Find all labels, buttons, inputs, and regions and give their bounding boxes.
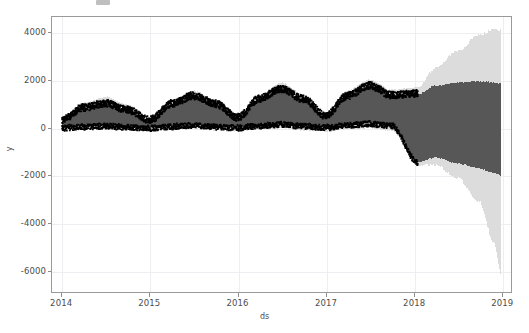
- x-tick-mark: [414, 293, 415, 297]
- x-axis-label: ds: [0, 312, 529, 321]
- data-layer: [52, 17, 511, 292]
- y-tick-label: -2000: [0, 170, 46, 180]
- figure-canvas: 400020000-2000-4000-6000 201420152016201…: [0, 0, 529, 333]
- x-tick-label: 2015: [138, 298, 160, 308]
- x-tick-label: 2017: [315, 298, 337, 308]
- y-tick-mark: [48, 80, 52, 81]
- y-tick-label: 0: [0, 123, 46, 133]
- plot-axes: [51, 16, 512, 293]
- y-tick-mark: [48, 271, 52, 272]
- y-tick-mark: [48, 128, 52, 129]
- y-tick-label: 4000: [0, 27, 46, 37]
- x-tick-label: 2014: [50, 298, 72, 308]
- y-axis-label: y: [5, 147, 14, 152]
- x-tick-mark: [326, 293, 327, 297]
- y-tick-mark: [48, 32, 52, 33]
- y-tick-label: -4000: [0, 218, 46, 228]
- y-tick-mark: [48, 175, 52, 176]
- x-tick-label: 2018: [403, 298, 425, 308]
- x-tick-label: 2016: [226, 298, 248, 308]
- plot-wrapper: 400020000-2000-4000-6000 201420152016201…: [0, 0, 529, 333]
- y-tick-label: -6000: [0, 266, 46, 276]
- x-tick-mark: [502, 293, 503, 297]
- x-tick-label: 2019: [491, 298, 513, 308]
- x-tick-mark: [238, 293, 239, 297]
- x-tick-mark: [149, 293, 150, 297]
- x-tick-mark: [61, 293, 62, 297]
- y-tick-mark: [48, 223, 52, 224]
- y-tick-label: 2000: [0, 75, 46, 85]
